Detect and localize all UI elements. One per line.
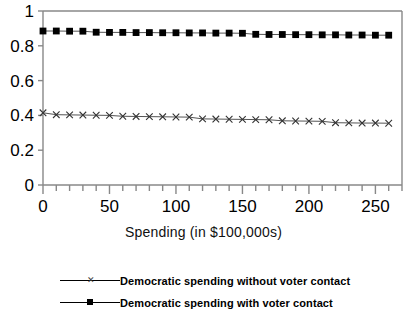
data-point-square-marker — [332, 31, 339, 38]
data-series-layer — [40, 28, 393, 127]
data-point-square-marker — [79, 28, 86, 35]
x-tick-label: 150 — [228, 197, 256, 216]
data-point-square-marker — [252, 31, 259, 38]
data-point-square-marker — [53, 28, 60, 35]
y-axis-tick-labels: 00.20.40.60.81 — [10, 2, 34, 195]
series-2 — [40, 109, 392, 126]
data-point-square-marker — [186, 30, 193, 37]
line-chart-plot: 00.20.40.60.81 050100150200250 — [0, 0, 407, 220]
x-tick-label: 50 — [100, 197, 119, 216]
data-point-square-marker — [226, 30, 233, 37]
y-tick-label: 0.2 — [10, 141, 34, 160]
data-point-square-marker — [66, 28, 73, 35]
y-tick-label: 0.4 — [10, 106, 34, 125]
x-axis-tick-labels: 050100150200250 — [38, 197, 389, 216]
legend-label-without-voter-contact: Democratic spending without voter contac… — [120, 275, 350, 287]
legend-marker-x-icon: ✕ — [60, 274, 120, 288]
data-point-square-marker — [359, 32, 366, 39]
legend-label-with-voter-contact: Democratic spending with voter contact — [120, 297, 333, 309]
data-point-square-marker — [146, 29, 153, 36]
chart-legend: ✕ Democratic spending without voter cont… — [0, 272, 407, 312]
legend-marker-square-icon — [60, 296, 120, 310]
x-tick-label: 0 — [38, 197, 47, 216]
data-point-square-marker — [133, 29, 140, 36]
data-point-square-marker — [40, 28, 47, 35]
x-tick-label: 200 — [295, 197, 323, 216]
data-point-square-marker — [319, 31, 326, 38]
data-point-square-marker — [279, 31, 286, 38]
x-axis-title: Spending (in $100,000s) — [0, 224, 407, 240]
x-tick-label: 100 — [162, 197, 190, 216]
x-axis-ticks — [43, 185, 402, 194]
data-point-square-marker — [212, 30, 219, 37]
data-point-square-marker — [199, 30, 206, 37]
series-1 — [40, 28, 393, 39]
y-axis-ticks — [38, 11, 43, 185]
y-tick-label: 0.8 — [10, 37, 34, 56]
data-point-square-marker — [119, 29, 126, 36]
data-point-square-marker — [106, 29, 113, 36]
data-point-square-marker — [372, 32, 379, 39]
data-point-square-marker — [266, 31, 273, 38]
data-point-square-marker — [239, 30, 246, 37]
chart-figure: 00.20.40.60.81 050100150200250 Spending … — [0, 0, 407, 319]
data-point-square-marker — [159, 29, 166, 36]
data-point-square-marker — [93, 29, 100, 36]
y-tick-label: 0 — [25, 176, 34, 195]
y-tick-label: 0.6 — [10, 72, 34, 91]
data-point-square-marker — [292, 31, 299, 38]
y-tick-label: 1 — [25, 2, 34, 21]
data-point-square-marker — [306, 31, 313, 38]
data-point-square-marker — [385, 32, 392, 39]
data-point-square-marker — [345, 32, 352, 39]
legend-item-without-voter-contact[interactable]: ✕ Democratic spending without voter cont… — [60, 272, 350, 290]
legend-item-with-voter-contact[interactable]: Democratic spending with voter contact — [60, 294, 333, 312]
x-tick-label: 250 — [361, 197, 389, 216]
data-point-square-marker — [173, 29, 180, 36]
